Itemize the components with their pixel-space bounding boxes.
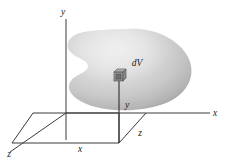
base-plane-projection bbox=[12, 113, 146, 143]
coord-x-label: x bbox=[77, 144, 83, 154]
z-axis-label: z bbox=[6, 149, 11, 159]
figure-canvas: y x z y x z dV bbox=[0, 0, 225, 164]
coord-y-label: y bbox=[124, 100, 130, 110]
coord-z-label: z bbox=[137, 128, 142, 138]
cube-inner-face bbox=[116, 74, 121, 79]
z-axis-line bbox=[10, 113, 66, 152]
blob-highlight bbox=[68, 29, 192, 111]
x-axis-label: x bbox=[212, 108, 218, 118]
base-right-diagonal bbox=[119, 113, 146, 143]
volume-integral-figure: y x z y x z dV bbox=[0, 0, 225, 164]
volume-element-label: dV bbox=[132, 58, 144, 68]
volume-region-blob bbox=[68, 29, 192, 111]
y-axis-label: y bbox=[60, 7, 66, 17]
volume-element-cube bbox=[114, 69, 126, 81]
